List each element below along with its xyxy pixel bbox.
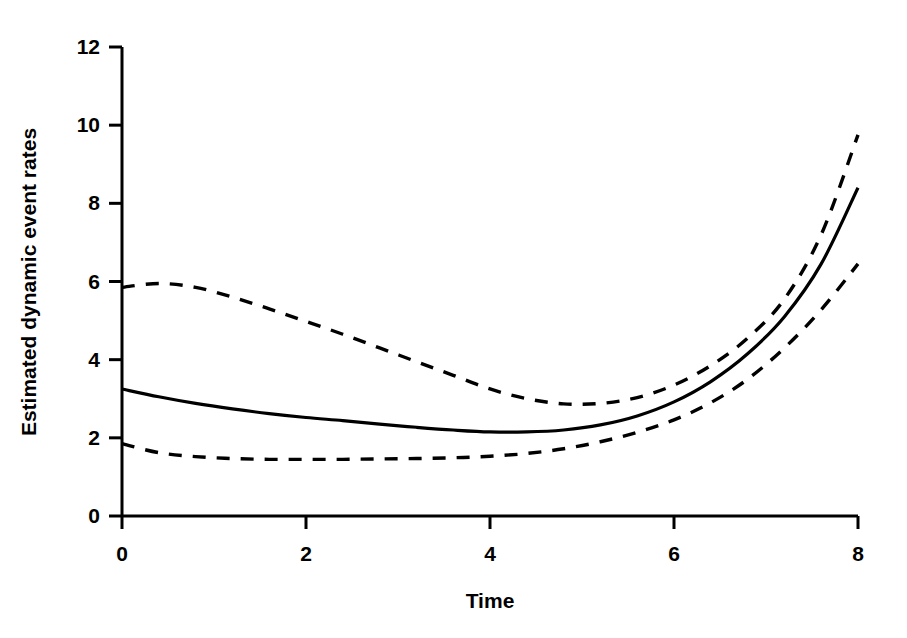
y-axis-tick-label: 12 xyxy=(77,35,100,58)
event-rate-line-chart: 024681012 02468 Time Estimated dynamic e… xyxy=(0,0,907,638)
x-axis-tick-label: 4 xyxy=(484,542,496,565)
y-axis-tick-label: 6 xyxy=(88,270,100,293)
x-axis-tick-label: 8 xyxy=(852,542,864,565)
chart-figure: 024681012 02468 Time Estimated dynamic e… xyxy=(0,0,907,638)
y-axis-title: Estimated dynamic event rates xyxy=(17,128,40,436)
y-axis-tick-label: 0 xyxy=(88,504,100,527)
y-axis-tick-label: 10 xyxy=(77,113,100,136)
x-axis-title: Time xyxy=(466,589,515,612)
y-axis-tick-label: 8 xyxy=(88,191,100,214)
x-axis-tick-label: 0 xyxy=(116,542,128,565)
x-axis-tick-label: 6 xyxy=(668,542,680,565)
x-axis-tick-label: 2 xyxy=(300,542,312,565)
y-axis-tick-label: 2 xyxy=(88,426,100,449)
y-axis-tick-label: 4 xyxy=(88,348,100,371)
chart-background xyxy=(0,0,907,638)
